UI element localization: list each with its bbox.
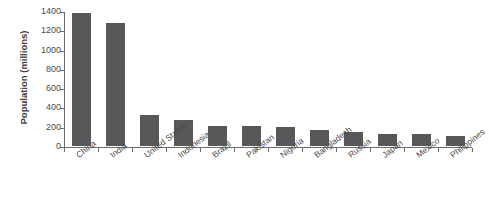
plot-area: 0200400600800100012001400 bbox=[64, 12, 472, 147]
bar bbox=[106, 23, 125, 146]
y-axis-title: Population (millions) bbox=[18, 5, 29, 150]
x-axis-labels: ChinaIndiaUnited StatesIndonesiaBrazilPa… bbox=[64, 152, 472, 212]
bar bbox=[72, 13, 91, 146]
y-tick-label: 1200 bbox=[31, 25, 61, 35]
y-tick-label: 0 bbox=[31, 141, 61, 151]
y-tick-label: 800 bbox=[31, 64, 61, 74]
y-tick-label: 200 bbox=[31, 122, 61, 132]
y-axis-line bbox=[64, 12, 65, 148]
population-bar-chart: Population (millions) 020040060080010001… bbox=[0, 0, 489, 213]
y-tick-label: 600 bbox=[31, 83, 61, 93]
x-tick-mark bbox=[472, 148, 473, 152]
y-tick-label: 1000 bbox=[31, 45, 61, 55]
y-tick-label: 400 bbox=[31, 102, 61, 112]
y-tick-label: 1400 bbox=[31, 6, 61, 16]
